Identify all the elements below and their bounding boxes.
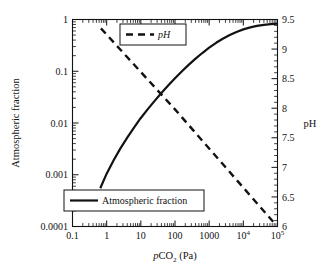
x-tick-label: 0.1 [66,230,79,241]
y-axis-title-left: Atmospheric fraction [10,77,21,167]
legend-label: pH [157,29,171,40]
y-tick-label-right: 9.5 [282,14,295,25]
y-axis-title-right: pH [304,118,317,129]
legend-atmospheric-fraction[interactable]: Atmospheric fraction [64,190,204,211]
y-tick-label-right: 6.5 [282,192,295,203]
y-tick-label-left: 0.001 [46,169,69,180]
x-tick-label: 1 [104,230,109,241]
y-tick-label-right: 6 [282,221,287,232]
y-tick-label-right: 8.5 [282,73,295,84]
y-tick-label-right: 9 [282,44,287,55]
chart-figure: 0.111010010001041050.00010.0010.010.1166… [0,0,327,272]
x-tick-label: 10 [136,230,146,241]
y-tick-label-left: 0.0001 [41,221,69,232]
y-tick-label-right: 7.5 [282,132,295,143]
x-tick-label: 100 [168,230,183,241]
x-tick-label: 1000 [199,230,219,241]
y-tick-label-left: 0.1 [56,66,69,77]
y-tick-label-left: 0.01 [51,118,69,129]
y-tick-label-left: 1 [63,14,68,25]
chart-svg: 0.111010010001041050.00010.0010.010.1166… [0,0,327,272]
legend-ph[interactable]: pH [120,24,186,45]
y-tick-label-right: 7 [282,162,287,173]
legend-label: Atmospheric fraction [102,195,187,206]
y-tick-label-right: 8 [282,103,287,114]
